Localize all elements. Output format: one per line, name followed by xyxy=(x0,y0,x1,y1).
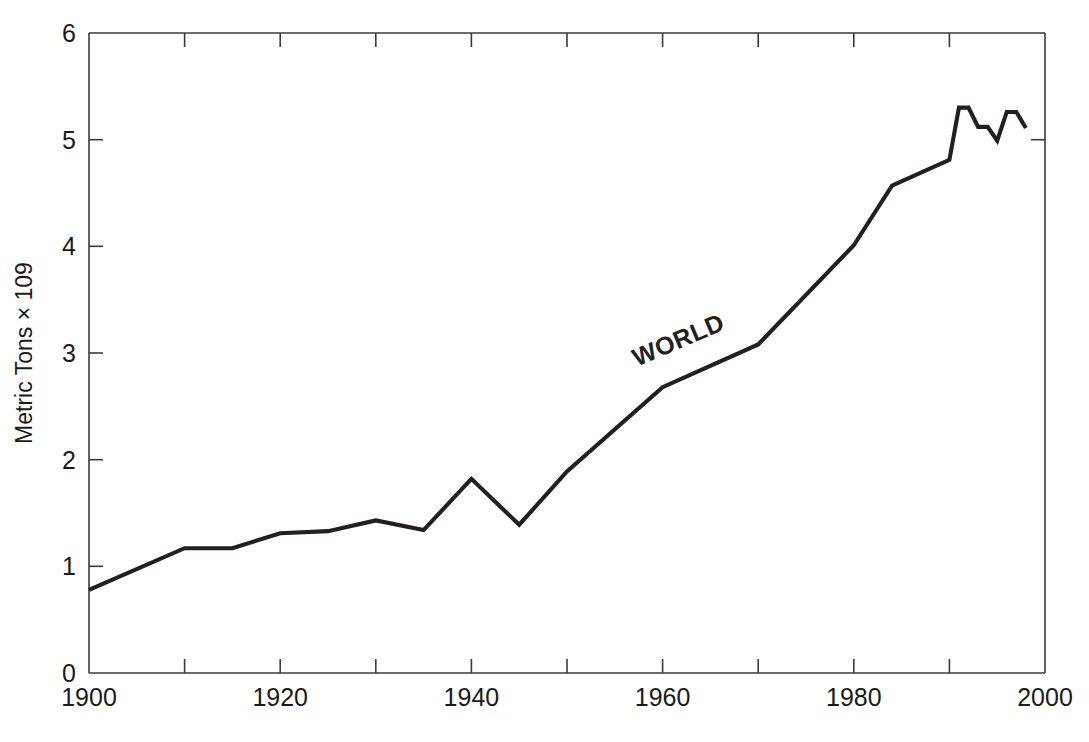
y-tick-label-6: 6 xyxy=(62,19,76,47)
caption-strip xyxy=(0,730,1089,742)
figure-root: 0 1 2 3 4 5 6 1900 1920 1940 1960 1980 2… xyxy=(0,0,1089,742)
series-label-world: WORLD xyxy=(628,308,728,372)
y-tick-marks xyxy=(89,140,103,567)
data-series-world xyxy=(89,108,1026,590)
x-tick-label-1900: 1900 xyxy=(61,683,117,711)
y-tick-label-5: 5 xyxy=(62,126,76,154)
x-tick-label-1920: 1920 xyxy=(252,683,308,711)
chart-canvas: 0 1 2 3 4 5 6 1900 1920 1940 1960 1980 2… xyxy=(0,0,1089,742)
x-tick-label-1960: 1960 xyxy=(635,683,691,711)
x-tick-label-1980: 1980 xyxy=(826,683,882,711)
x-tick-label-1940: 1940 xyxy=(444,683,500,711)
y-tick-label-1: 1 xyxy=(62,552,76,580)
x-tick-labels: 1900 1920 1940 1960 1980 2000 xyxy=(61,683,1073,711)
y-tick-label-3: 3 xyxy=(62,339,76,367)
y-axis-title: Metric Tons × 109 xyxy=(11,262,37,444)
x-tick-label-2000: 2000 xyxy=(1017,683,1073,711)
axis-frame xyxy=(89,33,1045,673)
y-tick-labels: 0 1 2 3 4 5 6 xyxy=(62,19,76,687)
x-tick-marks-bottom xyxy=(185,659,950,673)
y-tick-label-2: 2 xyxy=(62,446,76,474)
y-tick-label-4: 4 xyxy=(62,232,76,260)
x-tick-marks-top xyxy=(185,33,950,47)
